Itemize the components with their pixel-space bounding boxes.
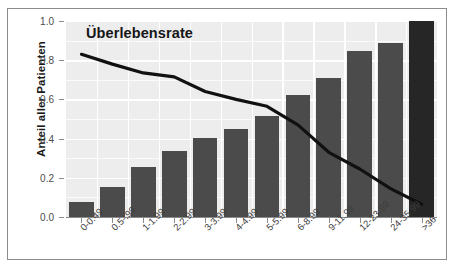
y-axis-tick-label: 1.0 (28, 16, 54, 27)
y-axis-tick-mark (59, 60, 64, 61)
y-axis-tick-label: 0.2 (28, 172, 54, 183)
y-axis-tick-mark (59, 178, 64, 179)
y-axis-tick-mark (59, 217, 64, 218)
y-axis-tick-label: 0.0 (28, 212, 54, 223)
y-axis-tick-mark (59, 139, 64, 140)
chart-figure-frame: Anteil aller Patienten 0.00.20.40.60.81.… (7, 8, 447, 260)
y-axis-tick-label: 0.8 (28, 55, 54, 66)
y-axis-tick-label: 0.6 (28, 94, 54, 105)
y-axis-tick-label: 0.4 (28, 133, 54, 144)
chart-title: Überlebensrate (86, 25, 193, 41)
survival-rate-line (66, 21, 437, 217)
y-axis-tick-labels: 0.00.20.40.60.81.0 (28, 9, 54, 259)
y-axis-tick-mark (59, 99, 64, 100)
plot-area (66, 21, 437, 217)
y-axis-tick-mark (59, 21, 64, 22)
